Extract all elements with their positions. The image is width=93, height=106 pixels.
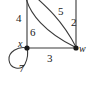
edge-label-2: 2 <box>71 17 77 28</box>
edge-label-4: 4 <box>16 13 22 24</box>
vertex-dot-w <box>73 45 78 50</box>
vertex-label-w: w <box>79 44 86 54</box>
edge-label-5: 5 <box>58 6 64 17</box>
edge-label-6: 6 <box>30 27 36 38</box>
vertex-dot-x <box>24 45 29 50</box>
edge-curve-5 <box>30 0 76 47</box>
vertex-label-x: x <box>18 39 22 49</box>
edge-curve-6 <box>25 0 75 47</box>
edge-label-7: 7 <box>19 63 25 74</box>
edge-label-3: 3 <box>47 53 53 64</box>
graph-figure: x w 4 2 5 6 3 7 <box>0 0 93 106</box>
